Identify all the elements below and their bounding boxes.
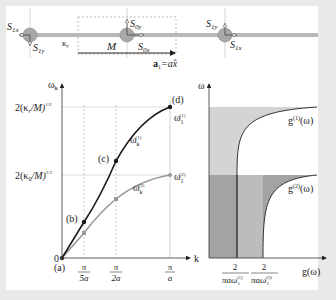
label-omega-k2: ωk(2) xyxy=(133,182,145,195)
label-g2: g(2)(ω) xyxy=(288,183,313,195)
label-point-a: (a) xyxy=(54,262,65,274)
dispersion-chart: ωk k 2(κr/M)1/2 2(κ0/M)1/2 0 π 5a π 2a π… xyxy=(15,79,199,283)
label-point-d: (d) xyxy=(172,94,184,106)
point-d xyxy=(168,105,172,109)
lattice-diagram: S1x S1y κr M S0y S0x S1y S1x a1=ax̂ xyxy=(7,8,318,70)
xtick-pi2a-num: π xyxy=(114,262,119,272)
xtick-pi2a-den: 2a xyxy=(112,273,122,283)
xtick-pi5a-num: π xyxy=(82,262,87,272)
xtick-g1-num: 2 xyxy=(233,262,238,272)
xtick-pi5a-den: 5a xyxy=(80,273,90,283)
label-lattice-vector: a1=ax̂ xyxy=(153,58,178,70)
point-b-curve2 xyxy=(82,231,86,235)
label-s1x-left: S1x xyxy=(7,21,20,34)
label-kappa-r: κr xyxy=(62,38,70,49)
label-omega-1-2: ω1(2) xyxy=(174,171,186,184)
dos-chart: ω g(ω) g(1)(ω) g(2)(ω) 2 πaω1(1) 2 πaω1(… xyxy=(198,80,326,286)
ytick-mid: 2(κ0/M)1/2 xyxy=(15,170,53,182)
label-g-axis: g(ω) xyxy=(302,266,320,278)
point-d-curve2 xyxy=(168,173,172,177)
ytick-top: 2(κr/M)1/2 xyxy=(15,102,52,114)
label-point-c: (c) xyxy=(98,153,109,165)
xtick-g1-den: πaω1(1) xyxy=(222,275,243,286)
label-g1: g(1)(ω) xyxy=(288,115,313,127)
label-s1y-left: S1y xyxy=(33,42,46,55)
xtick-pia-den: a xyxy=(168,273,173,283)
label-omega-k1: ωk(1) xyxy=(130,134,142,147)
xtick-pia-num: π xyxy=(168,262,173,272)
label-omega-axis: ω xyxy=(198,80,205,91)
point-a xyxy=(60,256,64,260)
label-s1y-right: S1y xyxy=(206,18,219,31)
label-s0y: S0y xyxy=(130,18,143,31)
label-omega-k-axis: ωk xyxy=(48,79,59,92)
point-c-curve2 xyxy=(114,197,118,201)
point-c xyxy=(114,159,118,163)
label-s0x: S0x xyxy=(138,41,151,54)
figure-svg: S1x S1y κr M S0y S0x S1y S1x a1=ax̂ ωk xyxy=(0,0,336,300)
label-point-b: (b) xyxy=(66,213,78,225)
point-b xyxy=(82,220,86,224)
label-k-axis: k xyxy=(194,253,199,264)
label-omega-1-1: ω1(1) xyxy=(174,112,186,125)
label-s1x-right: S1x xyxy=(230,39,243,52)
label-mass: M xyxy=(106,40,117,52)
xtick-g2-num: 2 xyxy=(262,262,267,272)
band-mid xyxy=(237,175,263,258)
xtick-g2-den: πaω1(2) xyxy=(251,275,272,286)
